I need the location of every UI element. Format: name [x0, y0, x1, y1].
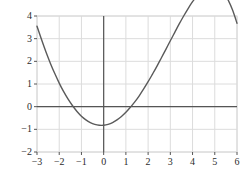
x-tick-label: 5	[212, 157, 217, 167]
x-tick-label: 4	[190, 157, 195, 167]
y-tick-label: −2	[21, 147, 32, 157]
x-tick-label: 3	[168, 157, 173, 167]
x-tick-label: −2	[54, 157, 65, 167]
y-tick-label: 0	[27, 102, 32, 112]
x-tick-label: −1	[76, 157, 87, 167]
x-tick-label: −3	[32, 157, 43, 167]
y-tick-label: 1	[27, 79, 32, 89]
chart-plot-svg	[0, 0, 251, 170]
y-tick-label: 2	[27, 56, 32, 66]
chart-figure: −2−101234 −3−2−10123456	[0, 0, 251, 170]
x-tick-label: 0	[101, 157, 106, 167]
x-tick-label: 1	[123, 157, 128, 167]
y-tick-label: 3	[27, 34, 32, 44]
y-tick-label: 4	[27, 11, 32, 21]
x-tick-label: 6	[235, 157, 240, 167]
y-tick-label: −1	[21, 124, 32, 134]
grid-lines-horizontal	[37, 16, 237, 152]
x-tick-label: 2	[146, 157, 151, 167]
